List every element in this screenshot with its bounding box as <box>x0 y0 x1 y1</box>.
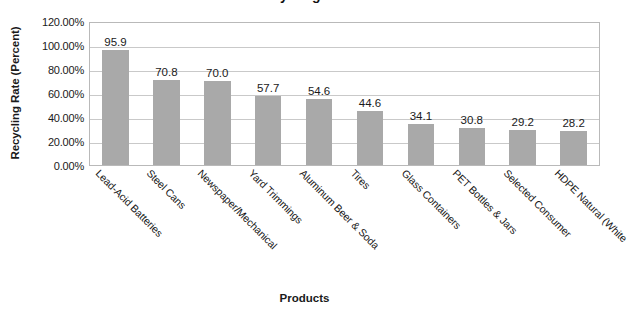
bar-slot: 70.0 <box>192 23 243 165</box>
bar: 30.8 <box>459 128 485 165</box>
y-axis-title-text: Recycling Rate (Percent) <box>9 26 21 159</box>
x-axis-title: Products <box>0 292 609 304</box>
bar: 95.9 <box>102 50 128 165</box>
x-axis-category-label: Yard Trimmings <box>246 167 305 226</box>
plot-area: 95.970.870.057.754.644.634.130.829.228.2 <box>89 22 600 166</box>
bar: 57.7 <box>255 96 281 165</box>
y-axis-tick-label: 120.00% <box>42 16 84 28</box>
bar-value-label: 70.8 <box>155 66 177 78</box>
x-axis-category-labels: Lead-Acid BatteriesSteel CansNewspaper/M… <box>89 167 600 287</box>
bar-series: 95.970.870.057.754.644.634.130.829.228.2 <box>90 23 599 165</box>
chart-title: Recycling Rate <box>0 0 609 3</box>
bar-value-label: 30.8 <box>461 114 483 126</box>
x-axis-category-label: Steel Cans <box>144 167 188 211</box>
bar-slot: 44.6 <box>345 23 396 165</box>
y-axis-title: Recycling Rate (Percent) <box>4 18 26 168</box>
y-axis-tick-label: 40.00% <box>48 112 84 124</box>
x-axis-category-label: Tires <box>349 167 373 191</box>
bar-slot: 30.8 <box>446 23 497 165</box>
bar-slot: 28.2 <box>548 23 599 165</box>
bar-slot: 34.1 <box>395 23 446 165</box>
y-axis-tick-labels: 0.00%20.00%40.00%60.00%80.00%100.00%120.… <box>26 16 86 172</box>
bar: 29.2 <box>509 130 535 165</box>
bar-value-label: 44.6 <box>359 97 381 109</box>
bar-slot: 70.8 <box>141 23 192 165</box>
bar-value-label: 57.7 <box>257 82 279 94</box>
bar: 34.1 <box>408 124 434 165</box>
y-axis-tick-label: 100.00% <box>42 40 84 52</box>
bar-value-label: 34.1 <box>410 110 432 122</box>
bar-value-label: 29.2 <box>512 116 534 128</box>
bar: 70.0 <box>204 81 230 165</box>
bar-value-label: 95.9 <box>104 36 126 48</box>
y-axis-tick-label: 80.00% <box>48 64 84 76</box>
bar-value-label: 54.6 <box>308 85 330 97</box>
y-axis-tick-label: 0.00% <box>54 160 84 172</box>
bar-slot: 57.7 <box>243 23 294 165</box>
bar-slot: 54.6 <box>294 23 345 165</box>
bar-slot: 95.9 <box>90 23 141 165</box>
bar: 28.2 <box>560 131 586 165</box>
y-axis-tick-label: 20.00% <box>48 136 84 148</box>
bar: 54.6 <box>306 99 332 165</box>
bar: 44.6 <box>357 111 383 165</box>
bar: 70.8 <box>153 80 179 165</box>
bar-value-label: 28.2 <box>562 117 584 129</box>
y-axis-tick-label: 60.00% <box>48 88 84 100</box>
bar-slot: 29.2 <box>497 23 548 165</box>
bar-value-label: 70.0 <box>206 67 228 79</box>
